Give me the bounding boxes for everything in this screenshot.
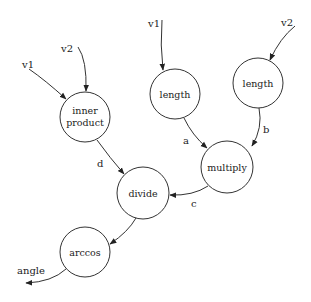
output-label-angle: angle bbox=[17, 265, 45, 276]
edge-multiply-divide bbox=[170, 186, 208, 195]
edge-length2-multiply bbox=[252, 108, 260, 146]
edge-label-c: c bbox=[191, 198, 197, 209]
node-label-inner: inner bbox=[72, 105, 98, 116]
input-label-v1: v1 bbox=[21, 59, 34, 70]
edge-v1-inner-product bbox=[29, 69, 66, 99]
input-label-v2: v2 bbox=[60, 43, 73, 54]
node-divide: divide bbox=[117, 167, 169, 219]
edge-divide-arccos bbox=[110, 218, 136, 244]
dataflow-diagram: v1 v2 v1 v2 a b c d angle inner product … bbox=[0, 0, 311, 302]
node-arccos: arccos bbox=[60, 227, 110, 277]
node-label: divide bbox=[128, 188, 158, 199]
node-length-2: length bbox=[233, 58, 283, 108]
node-label: length bbox=[160, 89, 191, 100]
node-label: length bbox=[243, 78, 274, 89]
node-length-1: length bbox=[150, 69, 200, 119]
edge-v2-inner-product bbox=[78, 47, 86, 91]
node-label: arccos bbox=[69, 247, 101, 258]
node-inner-product: inner product bbox=[60, 92, 110, 142]
node-label-product: product bbox=[66, 117, 104, 128]
edge-label-b: b bbox=[263, 124, 269, 135]
node-multiply: multiply bbox=[201, 141, 253, 193]
input-label-v1: v1 bbox=[147, 18, 160, 29]
edge-label-a: a bbox=[183, 135, 189, 146]
edge-label-d: d bbox=[97, 158, 104, 169]
edge-v2-length2 bbox=[270, 26, 295, 60]
edge-v1-length1 bbox=[161, 20, 163, 70]
input-label-v2: v2 bbox=[280, 17, 293, 28]
node-label: multiply bbox=[207, 162, 247, 173]
